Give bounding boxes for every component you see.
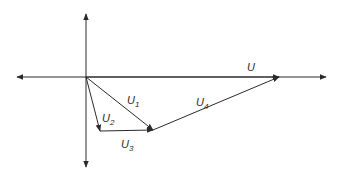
vector-u3 — [100, 130, 153, 131]
label-group: UU1U2U3U4 — [102, 61, 255, 153]
vector-group — [86, 77, 279, 131]
vector-u1 — [86, 77, 153, 130]
vector-label-u1: U1 — [127, 94, 139, 109]
vector-label-u2: U2 — [102, 112, 115, 127]
vector-u2 — [86, 77, 100, 131]
phasor-diagram: UU1U2U3U4 — [0, 0, 337, 175]
vector-u4 — [153, 77, 279, 130]
vector-label-u3: U3 — [121, 138, 134, 153]
vector-label-u: U — [247, 61, 255, 73]
